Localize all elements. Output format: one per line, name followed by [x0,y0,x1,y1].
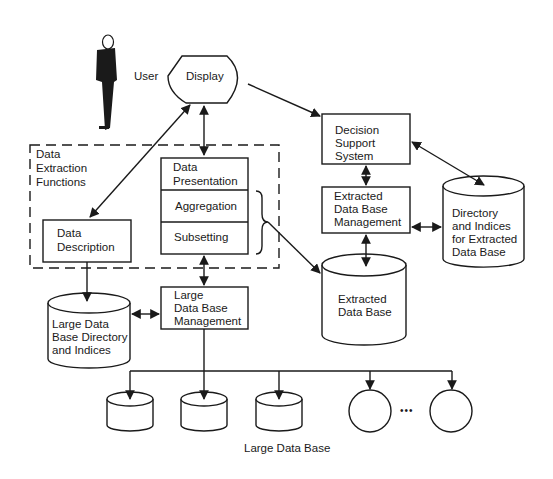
large-dir-line-3: and Indices [52,344,111,357]
extracted-dir-line-4: Data Base [452,246,506,259]
ellipsis: ••• [400,404,414,417]
user-figure-icon [96,35,117,130]
extracted-dbm-line-3: Management [334,216,401,229]
large-dir-line-2: Base Directory [52,331,127,344]
subsetting-label: Subsetting [174,231,228,244]
decision-support-line-3: System [335,150,373,163]
large-db-circle-1 [349,390,391,432]
data-description-line-2: Description [57,241,115,254]
extraction-group-title-2: Extraction [36,162,87,175]
data-presentation-line-2: Presentation [173,175,238,188]
large-dbm-line-3: Management [174,315,241,328]
display-label: Display [186,70,224,83]
aggregation-label: Aggregation [175,200,237,213]
large-dbm-line-1: Large [174,289,203,302]
decision-support-line-1: Decision [335,124,379,137]
extraction-group-title-3: Functions [36,176,86,189]
data-presentation-line-1: Data [173,161,197,174]
data-description-line-1: Data [57,227,81,240]
user-label: User [134,70,158,83]
extracted-db-line-1: Extracted [338,293,387,306]
large-db-circle-2 [430,390,472,432]
large-dbm-line-2: Data Base [174,302,228,315]
extracted-dbm-line-1: Extracted [334,190,383,203]
large-db-caption: Large Data Base [244,442,330,455]
large-dir-line-1: Large Data [52,318,109,331]
extracted-dbm-line-2: Data Base [334,203,388,216]
decision-support-line-2: Support [335,137,375,150]
extracted-dir-line-2: and Indices [452,220,511,233]
extracted-dir-line-1: Directory [452,207,498,220]
extraction-group-title-1: Data [36,148,60,161]
extracted-dir-line-3: for Extracted [452,233,517,246]
extracted-db-line-2: Data Base [338,306,392,319]
